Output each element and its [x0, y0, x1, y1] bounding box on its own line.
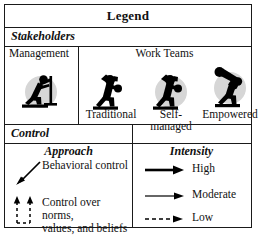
- intensity-item-high-label: High: [192, 162, 215, 175]
- diagonal-solid-arrow-icon: [13, 160, 43, 186]
- thick-solid-arrow-icon: [144, 164, 186, 176]
- work-teams-cell: Work Teams Trad: [78, 46, 251, 124]
- legend-panel: Legend Stakeholders Management: [4, 4, 252, 228]
- stakeholders-body: Management: [5, 46, 251, 124]
- control-body: Approach Behavioral control: [5, 143, 251, 227]
- intensity-item-low-label: Low: [192, 211, 213, 224]
- section-header-stakeholders: Stakeholders: [5, 27, 251, 46]
- approach-column: Approach Behavioral control: [5, 143, 132, 227]
- intensity-title: Intensity: [132, 144, 251, 159]
- intensity-column: Intensity High Moderate: [132, 143, 251, 227]
- empowered-label: Empowered: [190, 108, 258, 120]
- page-title: Legend: [107, 8, 149, 24]
- approach-item-control-over-norms-label: Control over norms, values, and beliefs: [42, 196, 132, 233]
- work-teams-label: Work Teams: [78, 47, 251, 59]
- intensity-item-moderate-label: Moderate: [192, 188, 236, 201]
- management-figure-icon: [18, 68, 64, 114]
- empowered-team-figure-icon: [207, 64, 253, 110]
- legend-title-row: Legend: [5, 5, 251, 27]
- section-header-stakeholders-label: Stakeholders: [5, 29, 75, 44]
- management-label: Management: [9, 47, 69, 59]
- vertical-dashed-arrows-icon: [12, 193, 40, 225]
- approach-title: Approach: [5, 144, 132, 159]
- approach-item-behavioral-control-label: Behavioral control: [42, 159, 128, 172]
- thin-solid-arrow-icon: [144, 190, 186, 202]
- section-header-control: Control: [5, 124, 251, 143]
- section-header-control-label: Control: [5, 126, 49, 141]
- dashed-arrow-icon: [144, 213, 186, 225]
- management-cell: Management: [5, 46, 78, 124]
